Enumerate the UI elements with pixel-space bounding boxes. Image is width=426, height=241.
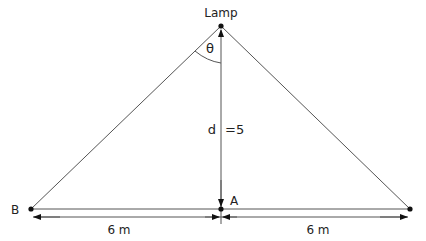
d-label: d xyxy=(208,122,216,137)
left-side-line xyxy=(31,26,221,209)
lamp-point xyxy=(218,23,223,28)
point-b xyxy=(28,206,33,211)
lamp-triangle-diagram: Lamp θ d =5 B A 6 m 6 m xyxy=(0,0,426,241)
point-b-label: B xyxy=(11,203,19,217)
d-value-label: =5 xyxy=(225,122,244,137)
point-right xyxy=(407,206,412,211)
right-side-line xyxy=(221,26,410,209)
point-a-label: A xyxy=(230,194,239,208)
left-distance-label: 6 m xyxy=(107,223,130,237)
point-a xyxy=(218,206,223,211)
right-distance-label: 6 m xyxy=(306,223,329,237)
lamp-label: Lamp xyxy=(204,6,237,20)
theta-label: θ xyxy=(206,41,214,56)
